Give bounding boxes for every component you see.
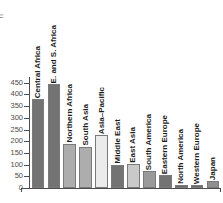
y-axis-tick-label-text: 150 — [1, 149, 23, 157]
y-axis-tick-label-text: 250 — [1, 126, 23, 134]
bar-category-label: South Asia — [82, 103, 90, 145]
y-axis-tick-label-text: 400 — [1, 90, 23, 98]
bar-category-label: Japan — [209, 156, 217, 180]
y-axis-title-text: n — [0, 14, 5, 18]
plot-area: Central AfricaE. and S. AfricaNorthern A… — [30, 78, 221, 188]
bar: Eastern Europe — [159, 175, 172, 188]
y-axis-tick-label-text: 50 — [1, 172, 23, 180]
y-axis-tick-label-text: 350 — [1, 102, 23, 110]
y-axis-tick-label: 400 — [0, 90, 23, 98]
bar-category-label: Central Africa — [34, 45, 42, 98]
bar-category-label: Northern Africa — [66, 83, 74, 142]
y-axis-tick-label: 250 — [0, 126, 23, 134]
y-axis-tick-label-text: 450 — [1, 79, 23, 87]
y-axis-tick — [24, 188, 30, 189]
y-axis-title-clipped: n — [0, 14, 10, 44]
bar: Central Africa — [32, 99, 45, 188]
bar-category-label: South America — [145, 113, 153, 170]
bar: East Asia — [127, 164, 140, 188]
y-axis-tick-label-text: 200 — [1, 137, 23, 145]
bar: Middle East — [111, 165, 124, 188]
bar: Japan — [207, 181, 220, 188]
bar-category-label: E. and S. Africa — [50, 24, 58, 83]
y-axis-tick-label: 150 — [0, 149, 23, 157]
y-axis-tick-label: 450 — [0, 79, 23, 87]
y-axis-tick-label: 300 — [0, 114, 23, 122]
bar: North America — [175, 185, 188, 188]
bar-category-label: Western Europe — [193, 122, 201, 184]
y-axis-tick-label: 0 — [0, 184, 23, 192]
y-axis-tick-label: 200 — [0, 137, 23, 145]
bar: South Asia — [79, 147, 92, 188]
bar: Asia–Pacific — [95, 135, 108, 188]
y-axis-tick-label: 50 — [0, 172, 23, 180]
x-axis-tick-right — [220, 188, 221, 192]
y-axis-tick-label-text: 300 — [1, 114, 23, 122]
y-axis-tick-label: 350 — [0, 102, 23, 110]
bar: South America — [143, 171, 156, 188]
bar: Western Europe — [191, 185, 204, 188]
bar: Northern Africa — [63, 144, 76, 188]
x-axis-line — [21, 188, 221, 189]
bar-category-label: Eastern Europe — [161, 114, 169, 174]
y-axis-tick-label-text: 0 — [1, 184, 23, 192]
bar-category-label: Asia–Pacific — [98, 86, 106, 134]
bar-chart: n 050100150200250300350400450 Central Af… — [0, 0, 223, 203]
bar-category-label: East Asia — [129, 126, 137, 163]
y-axis-tick-label-text: 100 — [1, 161, 23, 169]
bar-category-label: Middle East — [114, 118, 122, 163]
bar-category-label: North America — [177, 128, 185, 184]
bar: E. and S. Africa — [48, 84, 61, 188]
y-axis-tick-label: 100 — [0, 161, 23, 169]
